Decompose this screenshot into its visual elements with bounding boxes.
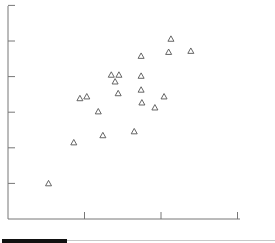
triangle-marker [95, 108, 101, 113]
triangle-marker [100, 132, 106, 137]
triangle-marker [138, 53, 144, 58]
triangle-marker [84, 94, 90, 99]
triangle-marker [131, 128, 137, 133]
axes [8, 5, 240, 219]
triangle-marker [138, 73, 144, 78]
bottom-divider [67, 240, 275, 241]
bottom-bar [2, 239, 67, 243]
triangle-marker [115, 90, 121, 95]
scatter-chart [0, 0, 275, 243]
triangle-marker [161, 94, 167, 99]
triangle-marker [188, 48, 194, 53]
triangle-marker [166, 49, 172, 54]
triangle-marker [116, 72, 122, 77]
triangle-marker [152, 105, 158, 110]
triangle-marker [46, 180, 52, 185]
triangle-marker [71, 139, 77, 144]
triangle-marker [108, 72, 114, 77]
triangle-marker [139, 100, 145, 105]
triangle-marker [77, 95, 83, 100]
triangle-marker [138, 87, 144, 92]
triangle-marker [112, 79, 118, 84]
data-points [46, 36, 194, 186]
triangle-marker [168, 36, 174, 41]
